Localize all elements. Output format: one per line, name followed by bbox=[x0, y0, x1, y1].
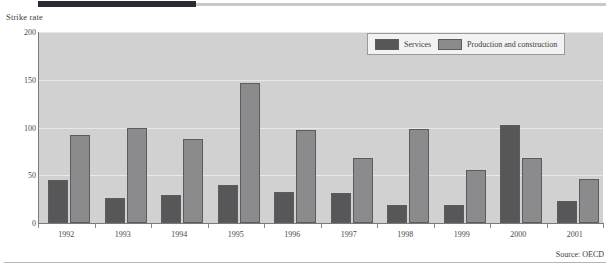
header-rule bbox=[196, 3, 606, 6]
plot-inner bbox=[39, 32, 603, 223]
legend-swatch-production bbox=[438, 39, 462, 50]
y-tick-label: 150 bbox=[2, 75, 36, 84]
y-tick-label: 0 bbox=[2, 219, 36, 228]
bar-group-1995 bbox=[209, 32, 266, 223]
bar-1994-production bbox=[183, 139, 203, 223]
bar-2001-services bbox=[557, 201, 577, 223]
legend-entry-services: Services bbox=[375, 39, 431, 50]
bar-group-1997 bbox=[322, 32, 379, 223]
x-tick-label-1999: 1999 bbox=[454, 230, 470, 239]
bar-1996-services bbox=[274, 192, 294, 224]
x-tick-label-1994: 1994 bbox=[171, 230, 187, 239]
x-tick-mark bbox=[208, 224, 209, 228]
x-tick-mark bbox=[321, 224, 322, 228]
bar-1999-services bbox=[444, 205, 464, 223]
bar-1997-services bbox=[331, 193, 351, 223]
bar-group-1994 bbox=[152, 32, 209, 223]
bar-group-1996 bbox=[265, 32, 322, 223]
y-tick-label: 50 bbox=[2, 171, 36, 180]
chart-legend: ServicesProduction and construction bbox=[367, 33, 565, 55]
x-tick-label-1993: 1993 bbox=[115, 230, 131, 239]
x-tick-mark bbox=[434, 224, 435, 228]
x-axis: 1992199319941995199619971998199920002001 bbox=[38, 224, 603, 246]
x-tick-label-1998: 1998 bbox=[397, 230, 413, 239]
bar-group-1992 bbox=[39, 32, 96, 223]
x-tick-mark bbox=[151, 224, 152, 228]
y-tick-label: 200 bbox=[2, 28, 36, 37]
x-tick-mark bbox=[264, 224, 265, 228]
legend-label-production: Production and construction bbox=[467, 40, 557, 49]
bar-1997-production bbox=[353, 158, 373, 223]
x-tick-mark bbox=[547, 224, 548, 228]
bar-1993-production bbox=[127, 128, 147, 223]
header-accent-bar bbox=[38, 1, 196, 7]
y-axis-title: Strike rate bbox=[6, 12, 43, 22]
bar-1999-production bbox=[466, 170, 486, 223]
bar-1995-production bbox=[240, 83, 260, 223]
x-tick-mark bbox=[38, 224, 39, 228]
bar-1992-services bbox=[48, 180, 68, 223]
x-tick-label-1992: 1992 bbox=[58, 230, 74, 239]
y-axis: 050100150200 bbox=[0, 32, 36, 223]
bar-2001-production bbox=[579, 179, 599, 223]
bar-1996-production bbox=[296, 130, 316, 223]
x-tick-mark bbox=[377, 224, 378, 228]
x-tick-label-1996: 1996 bbox=[284, 230, 300, 239]
legend-label-services: Services bbox=[404, 40, 431, 49]
legend-swatch-services bbox=[375, 39, 399, 50]
bar-2000-services bbox=[500, 125, 520, 223]
bar-1995-services bbox=[218, 185, 238, 223]
x-tick-label-1995: 1995 bbox=[228, 230, 244, 239]
bar-1998-services bbox=[387, 205, 407, 223]
bar-group-2001 bbox=[548, 32, 605, 223]
bar-group-2000 bbox=[491, 32, 548, 223]
bar-1993-services bbox=[105, 198, 125, 223]
legend-entry-production: Production and construction bbox=[438, 39, 557, 50]
x-tick-mark bbox=[95, 224, 96, 228]
x-tick-mark bbox=[490, 224, 491, 228]
bar-group-1998 bbox=[378, 32, 435, 223]
footer-rule bbox=[4, 262, 606, 263]
bar-group-1993 bbox=[96, 32, 153, 223]
plot-area bbox=[38, 32, 603, 223]
x-tick-label-1997: 1997 bbox=[341, 230, 357, 239]
bar-1998-production bbox=[409, 129, 429, 223]
bar-1994-services bbox=[161, 195, 181, 223]
x-tick-label-2000: 2000 bbox=[510, 230, 526, 239]
x-tick-mark bbox=[603, 224, 604, 228]
source-note: Source: OECD bbox=[556, 250, 604, 259]
x-tick-label-2001: 2001 bbox=[567, 230, 583, 239]
bar-1992-production bbox=[70, 135, 90, 223]
y-tick-label: 100 bbox=[2, 123, 36, 132]
bar-group-1999 bbox=[435, 32, 492, 223]
bar-2000-production bbox=[522, 158, 542, 223]
